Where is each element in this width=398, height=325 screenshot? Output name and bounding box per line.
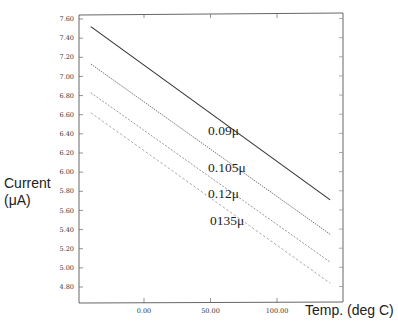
x-tick-label: 0.00 — [137, 307, 151, 315]
series-label: 0.09μ — [208, 123, 239, 138]
y-tick-label: 4.80 — [60, 283, 74, 291]
y-tick-label: 7.20 — [60, 53, 74, 61]
y-tick-label: 5.40 — [60, 226, 74, 234]
plot-frame — [79, 13, 343, 303]
y-tick-label: 5.00 — [60, 264, 74, 272]
series-label: 0.12μ — [208, 186, 239, 201]
series-labels: 0.09μ0.105μ0.12μ0135μ — [208, 123, 246, 228]
series-lines — [91, 27, 330, 284]
y-tick-label: 7.60 — [60, 15, 74, 23]
y-tick-label: 7.00 — [60, 73, 74, 81]
y-tick-label: 5.60 — [60, 207, 74, 215]
series-label: 0135μ — [210, 213, 244, 228]
series-line — [91, 93, 330, 262]
series-label: 0.105μ — [208, 160, 246, 175]
y-axis-label-line1: Current — [4, 175, 51, 192]
x-tick-label: 50.00 — [201, 307, 220, 315]
x-axis-label: Temp. (deg C) — [305, 302, 394, 318]
y-tick-label: 6.00 — [60, 168, 74, 176]
y-tick-label: 6.80 — [60, 92, 74, 100]
y-tick-label: 6.60 — [60, 111, 74, 119]
y-tick-label: 7.40 — [60, 34, 74, 42]
chart-plot: 7.607.407.207.006.806.606.406.206.005.80… — [0, 0, 398, 325]
y-tick-label: 6.20 — [60, 149, 74, 157]
y-axis-label-line2: (μA) — [4, 192, 51, 209]
y-tick-label: 5.20 — [60, 245, 74, 253]
y-tick-label: 5.80 — [60, 187, 74, 195]
y-axis-ticks: 7.607.407.207.006.806.606.406.206.005.80… — [60, 15, 343, 291]
x-tick-label: 100.00 — [266, 307, 289, 315]
y-tick-label: 6.40 — [60, 130, 74, 138]
y-axis-label: Current (μA) — [4, 175, 51, 209]
series-line — [91, 64, 330, 234]
